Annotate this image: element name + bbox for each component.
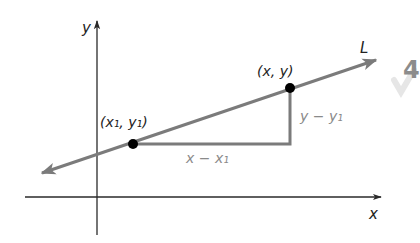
- point-slope-diagram: 4 y x L (x₁, y₁) (x, y) y − y₁ x − x₁: [0, 0, 420, 243]
- horizontal-leg-label: x − x₁: [185, 150, 229, 166]
- line-l-label: L: [360, 39, 368, 57]
- vertical-leg-label: y − y₁: [299, 108, 343, 124]
- edge-badge-number: 4: [403, 56, 420, 84]
- point-x1-y1: [128, 139, 138, 149]
- point-x-y-label: (x, y): [257, 63, 293, 79]
- point-x1-y1-label: (x₁, y₁): [100, 114, 148, 130]
- y-axis-label: y: [81, 19, 92, 37]
- point-x-y: [285, 83, 295, 93]
- edge-badge: 4: [394, 56, 420, 92]
- x-axis-label: x: [368, 205, 378, 223]
